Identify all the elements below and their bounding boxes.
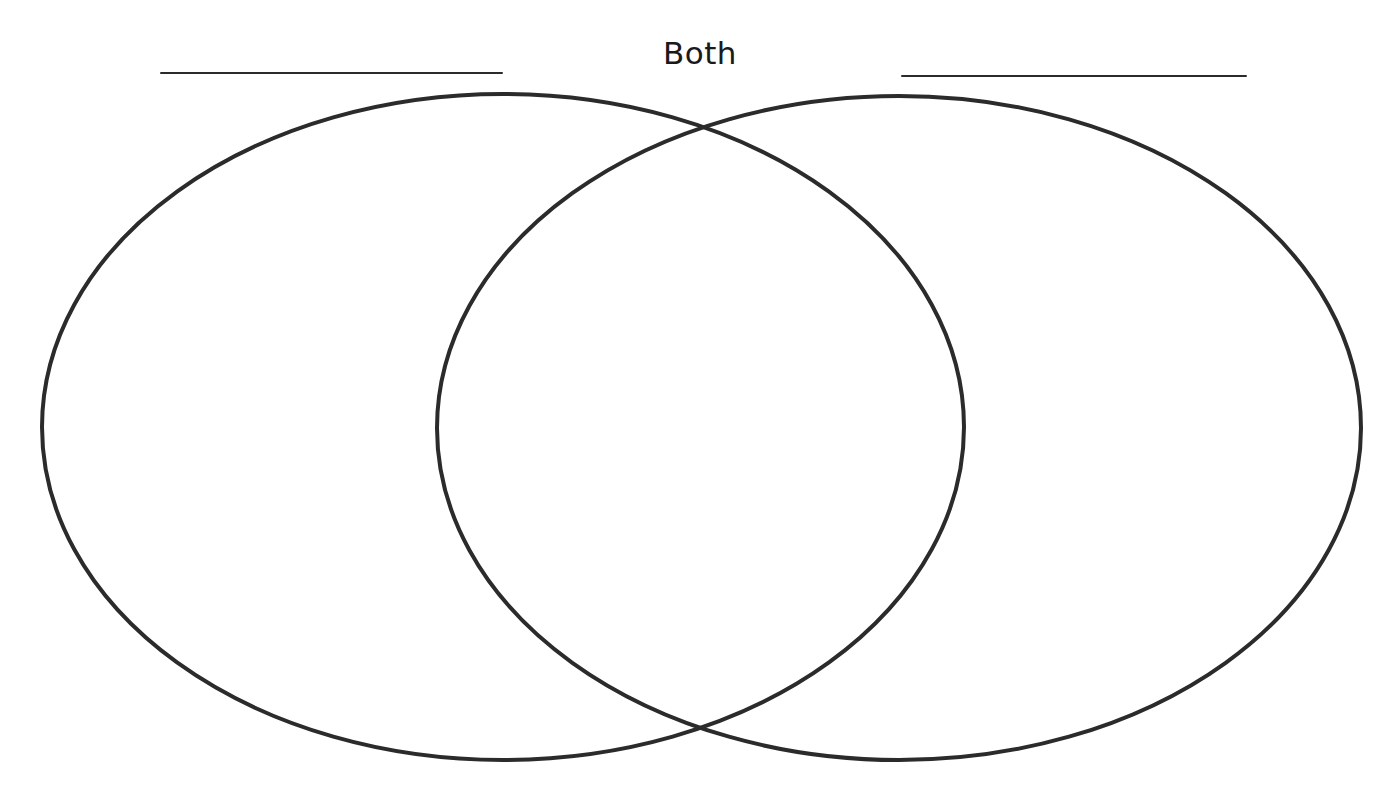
- left-set-ellipse: [42, 94, 964, 760]
- venn-diagram: Both: [0, 0, 1383, 789]
- right-set-label: [902, 43, 1246, 73]
- intersection-label: Both: [663, 38, 737, 69]
- right-set-ellipse: [437, 96, 1361, 760]
- venn-diagram-graphic: [0, 0, 1383, 789]
- left-set-label: [161, 40, 502, 70]
